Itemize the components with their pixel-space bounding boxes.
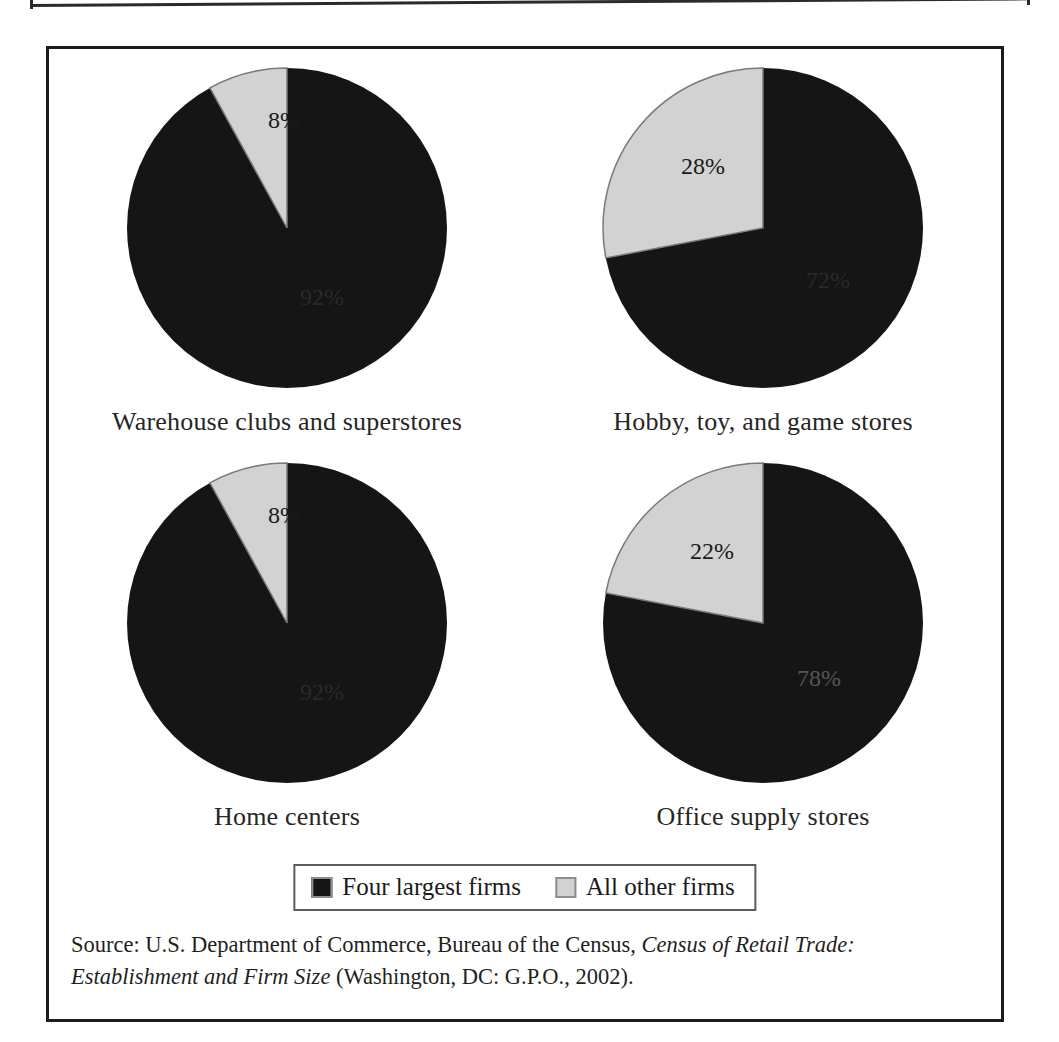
pie-svg-3 [598,458,928,788]
pie-chart-cell-2: 8% 92% Home centers [49,458,525,853]
source-note-prefix: Source: U.S. Department of Commerce, Bur… [71,932,642,957]
legend-label-all-other: All other firms [586,873,735,901]
pie-title-3: Office supply stores [657,802,870,832]
pie-slice-1-all-other [603,68,763,258]
pie-chart-0: 8% 92% [122,63,452,393]
pie-svg-1 [598,63,928,393]
legend-swatch-gray-icon [555,877,576,898]
pie-title-1: Hobby, toy, and game stores [613,407,913,437]
legend-item-all-other: All other firms [555,873,735,901]
pie-svg-0 [122,63,452,393]
legend-item-four-largest: Four largest firms [311,873,521,901]
pie-chart-3: 22% 78% [598,458,928,788]
pie-chart-cell-3: 22% 78% Office supply stores [525,458,1001,853]
previous-figure-bottom-rule [30,0,1030,7]
legend-swatch-black-icon [311,877,332,898]
pie-svg-2 [122,458,452,788]
pie-title-2: Home centers [214,802,360,832]
pie-chart-grid: 8% 92% Warehouse clubs and superstores 2… [49,63,1001,853]
pie-title-0: Warehouse clubs and superstores [112,407,462,437]
pie-chart-1: 28% 72% [598,63,928,393]
chart-legend: Four largest firms All other firms [293,864,756,911]
pie-chart-2: 8% 92% [122,458,452,788]
source-note: Source: U.S. Department of Commerce, Bur… [71,929,979,993]
figure-frame: 8% 92% Warehouse clubs and superstores 2… [46,46,1004,1022]
pie-chart-cell-1: 28% 72% Hobby, toy, and game stores [525,63,1001,458]
previous-figure-right-rule [1027,0,1030,5]
previous-figure-bottom-edge [30,0,1030,12]
pie-chart-cell-0: 8% 92% Warehouse clubs and superstores [49,63,525,458]
legend-label-four-largest: Four largest firms [342,873,521,901]
source-note-suffix: (Washington, DC: G.P.O., 2002). [330,964,633,989]
